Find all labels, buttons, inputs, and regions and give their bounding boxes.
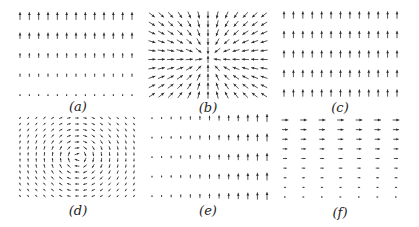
arrow-head bbox=[94, 54, 96, 56]
arrow-head bbox=[84, 54, 86, 56]
arrow-head bbox=[180, 195, 181, 196]
arrow-head bbox=[44, 158, 45, 159]
panel-d-label: (d) bbox=[69, 203, 87, 218]
arrow-head bbox=[209, 116, 211, 118]
arrow-head bbox=[304, 119, 307, 122]
arrow-head bbox=[151, 196, 152, 197]
arrow-head bbox=[359, 148, 361, 150]
arrow-head bbox=[358, 12, 361, 15]
arrow-head bbox=[377, 196, 378, 197]
arrow-head bbox=[77, 129, 78, 131]
arrow-head bbox=[283, 70, 286, 73]
arrow-head bbox=[47, 74, 48, 75]
arrow-head bbox=[171, 58, 174, 61]
arrow-head bbox=[256, 134, 259, 137]
arrow-head bbox=[285, 119, 288, 122]
arrow-head bbox=[19, 95, 20, 96]
arrow-head bbox=[284, 196, 285, 197]
arrow-head bbox=[285, 187, 286, 188]
arrow-head bbox=[322, 167, 323, 168]
arrow-head bbox=[209, 194, 211, 196]
arrow-head bbox=[199, 194, 201, 196]
arrow-head bbox=[131, 13, 134, 16]
arrow-head bbox=[341, 148, 343, 150]
arrow-head bbox=[84, 13, 87, 16]
arrow-head bbox=[56, 13, 59, 16]
arrow-head bbox=[237, 193, 240, 195]
arrow-head bbox=[197, 15, 200, 18]
arrow-head bbox=[301, 90, 304, 93]
arrow-head bbox=[190, 58, 193, 61]
arrow-head bbox=[330, 70, 333, 73]
panel-b-label: (b) bbox=[199, 100, 217, 115]
arrow-head bbox=[395, 196, 396, 197]
arrow-head bbox=[359, 128, 361, 131]
arrow-head bbox=[261, 58, 264, 61]
arrow-head bbox=[330, 12, 333, 15]
arrow-head bbox=[218, 194, 220, 196]
arrow-head bbox=[396, 90, 399, 93]
arrow-head bbox=[283, 12, 286, 15]
arrow-head bbox=[117, 160, 118, 161]
arrow-head bbox=[216, 15, 219, 18]
arrow-head bbox=[85, 74, 86, 75]
arrow-head bbox=[359, 177, 360, 178]
arrow-head bbox=[77, 141, 79, 143]
arrow-head bbox=[28, 54, 30, 56]
arrow-head bbox=[292, 31, 295, 34]
arrow-head bbox=[131, 74, 132, 75]
arrow-head bbox=[65, 33, 68, 35]
arrow-head bbox=[207, 51, 210, 54]
arrow-head bbox=[396, 70, 399, 73]
arrow-head bbox=[207, 33, 210, 36]
arrow-head bbox=[93, 13, 96, 16]
arrow-head bbox=[44, 152, 45, 153]
arrow-head bbox=[396, 12, 399, 15]
arrow-head bbox=[367, 70, 370, 73]
arrow-head bbox=[396, 148, 398, 150]
arrow-head bbox=[113, 74, 114, 75]
arrow-head bbox=[76, 195, 77, 196]
panel-c-quiver bbox=[283, 12, 399, 97]
arrow-head bbox=[38, 54, 40, 56]
arrow-head bbox=[227, 194, 229, 196]
arrow-head bbox=[199, 155, 201, 157]
arrow-head bbox=[378, 128, 380, 131]
arrow-head bbox=[320, 31, 323, 34]
arrow-head bbox=[19, 159, 20, 160]
arrow-head bbox=[396, 51, 399, 54]
arrow-head bbox=[181, 58, 184, 61]
arrow-head bbox=[378, 119, 381, 122]
arrow-head bbox=[339, 51, 342, 54]
arrow-head bbox=[348, 90, 351, 93]
arrow-head bbox=[121, 13, 124, 16]
arrow-head bbox=[322, 158, 324, 160]
arrow-head bbox=[131, 95, 132, 96]
arrow-head bbox=[47, 13, 50, 16]
arrow-head bbox=[339, 12, 342, 15]
arrow-head bbox=[161, 176, 162, 177]
arrow-head bbox=[348, 31, 351, 34]
arrow-head bbox=[246, 115, 249, 118]
arrow-head bbox=[103, 33, 106, 35]
arrow-head bbox=[396, 177, 397, 178]
arrow-head bbox=[199, 116, 201, 118]
arrow-head bbox=[396, 187, 397, 188]
arrow-head bbox=[330, 90, 333, 93]
arrow-head bbox=[358, 90, 361, 93]
arrow-head bbox=[348, 12, 351, 15]
arrow-head bbox=[199, 175, 201, 177]
arrow-head bbox=[19, 33, 22, 35]
arrow-head bbox=[359, 167, 360, 168]
arrow-head bbox=[378, 167, 379, 168]
arrow-head bbox=[190, 156, 191, 157]
arrow-head bbox=[386, 90, 389, 93]
arrow-head bbox=[396, 119, 399, 122]
arrow-head bbox=[57, 95, 58, 96]
arrow-head bbox=[180, 156, 181, 157]
arrow-head bbox=[227, 174, 229, 176]
arrow-head bbox=[103, 13, 106, 16]
arrow-head bbox=[75, 13, 78, 16]
arrow-head bbox=[29, 74, 30, 75]
arrow-head bbox=[112, 33, 115, 35]
